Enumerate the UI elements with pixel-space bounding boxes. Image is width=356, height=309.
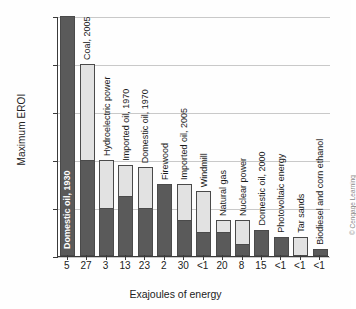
x-tick-mark [144,255,145,260]
x-tick-label: <1 [193,260,212,271]
x-tick-mark [86,255,87,260]
x-tick: 13 [115,260,134,271]
x-tick-label: <1 [290,260,309,271]
bar-lower-segment [157,184,172,256]
x-tick-mark [261,255,262,260]
x-tick: 15 [251,260,270,271]
x-tick-mark [222,255,223,260]
bar-label: Natural gas [219,170,228,216]
bar-slot: Coal, 2005 [77,16,96,256]
bar-label: Imported oil, 2005 [180,108,189,180]
bar[interactable]: Imported oil, 2005 [177,184,192,256]
x-tick: <1 [193,260,212,271]
bar-lower-segment [80,160,95,256]
bar-slot: Natural gas [213,16,232,256]
bar-slot: Biodiesel and corn ethanol [310,16,329,256]
y-tick-mark [53,257,58,258]
bar-label: Windmill [199,153,208,187]
x-tick-label: 13 [115,260,134,271]
bar-label: Domestic oil, 1970 [141,89,150,163]
bar-slot: Windmill [194,16,213,256]
bar-label: Photovoltaic energy [277,154,286,233]
bar-lower-segment [196,232,211,256]
x-tick-label: 23 [135,260,154,271]
x-tick-label: <1 [271,260,290,271]
bar-slot: Imported oil, 2005 [175,16,194,256]
x-tick: <1 [271,260,290,271]
x-tick-mark [125,255,126,260]
x-tick-label: 2 [154,260,173,271]
bar-slot: Domestic oil, 1970 [136,16,155,256]
bar-lower-segment [118,196,133,256]
copyright-credit: © Cengage Learning [349,175,356,235]
x-tick-mark [183,255,184,260]
y-axis-title: Maximum EROI [16,75,27,185]
x-tick: <1 [309,260,328,271]
bar-lower-segment [99,208,114,256]
x-axis-tick-labels: 52731323230<120815<1<1<1 [57,260,329,271]
bar[interactable]: Domestic oil, 2000 [254,230,269,256]
bar-label: Domestic oil, 1930 [63,170,72,249]
x-tick: 5 [57,260,76,271]
bar[interactable]: Nuclear power [235,220,250,256]
bar-slot: Firewood [155,16,174,256]
x-tick: 27 [76,260,95,271]
x-tick-label: 5 [57,260,76,271]
x-tick: <1 [290,260,309,271]
bar[interactable]: Domestic oil, 1930 [60,16,75,256]
x-tick-label: 20 [212,260,231,271]
bar-label: Firewood [160,143,169,180]
bar-lower-segment [274,237,289,256]
x-tick-label: 15 [251,260,270,271]
x-tick: 20 [212,260,231,271]
bar-lower-segment [216,232,231,256]
bar-slot: Nuclear power [233,16,252,256]
x-tick: 2 [154,260,173,271]
x-tick-label: 30 [174,260,193,271]
bar-label: Hydroelectric power [102,76,111,156]
x-tick-label: 27 [76,260,95,271]
x-tick-mark [203,255,204,260]
bar-slot: Imported oil, 1970 [116,16,135,256]
bar-label: Imported oil, 1970 [121,89,130,161]
x-tick-label: <1 [309,260,328,271]
bar[interactable]: Photovoltaic energy [274,237,289,256]
x-tick-mark [164,255,165,260]
bar-group: Domestic oil, 1930Coal, 2005Hydroelectri… [58,16,330,256]
bar-label: Tar sands [296,194,305,233]
bar-label: Coal, 2005 [83,16,92,60]
bar-slot: Tar sands [291,16,310,256]
gridline [58,257,330,258]
bar[interactable]: Coal, 2005 [80,64,95,256]
x-tick-mark [300,255,301,260]
bar-lower-segment [235,244,250,256]
x-tick: 23 [135,260,154,271]
x-tick-label: 8 [232,260,251,271]
bar-lower-segment [138,208,153,256]
x-tick-label: 3 [96,260,115,271]
bar-slot: Domestic oil, 2000 [252,16,271,256]
x-tick-mark [280,255,281,260]
bar[interactable]: Natural gas [216,220,231,256]
bar[interactable]: Biodiesel and corn ethanol [313,249,328,256]
x-tick-mark [242,255,243,260]
bar[interactable]: Tar sands [293,237,308,256]
bar[interactable]: Windmill [196,191,211,256]
x-tick: 30 [174,260,193,271]
x-tick: 8 [232,260,251,271]
bar-label: Biodiesel and corn ethanol [316,139,325,245]
x-tick-mark [67,255,68,260]
bar-label: Domestic oil, 2000 [257,152,266,226]
bar-lower-segment [177,220,192,256]
bar[interactable]: Hydroelectric power [99,160,114,256]
bar[interactable]: Firewood [157,184,172,256]
x-tick: 3 [96,260,115,271]
bar-lower-segment [254,230,269,256]
bar[interactable]: Domestic oil, 1970 [138,167,153,256]
bar-label: Nuclear power [238,158,247,216]
bar[interactable]: Imported oil, 1970 [118,165,133,256]
plot-area: 0:120:140:160:180:1100:1 Domestic oil, 1… [57,17,329,257]
bar-slot: Hydroelectric power [97,16,116,256]
x-axis-title: Exajoules of energy [0,288,351,300]
